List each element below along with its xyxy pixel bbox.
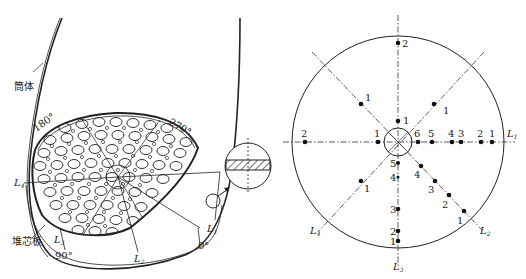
right-L3-label: L3 [392,261,404,273]
point-label-lower-left-1: 1 [364,183,370,194]
point-label-down-1: 1 [390,236,396,247]
right-diagram: 2 1 1 1 2 1 6 5 4 3 2 1 5 4 3 2 1 4 3 2 … [283,15,517,273]
right-L4-label: L4 [309,225,321,237]
point-label-up-inner-1: 1 [403,115,409,126]
right-L1-label: L1 [506,128,517,140]
figure-canvas: 筒体 堆芯板 180° 270° 90° 0° L4 L3 L2 L1 [0,0,526,279]
point-label-right-6: 6 [414,128,420,139]
angle-90-label: 90° [55,250,73,261]
detail-inset [225,138,271,194]
point-label-upper-right-1: 1 [443,105,449,116]
left-L2-label: L2 [133,253,145,265]
shell-label: 筒体 [14,80,34,92]
point-label-down-3: 3 [390,204,396,215]
point-label-diag-4: 4 [414,169,420,180]
point-label-down-4: 4 [390,172,396,183]
point-label-down-5: 5 [390,158,396,169]
point-label-left-inner-1: 1 [374,128,380,139]
point-label-top-2: 2 [402,38,408,49]
left-L3-label: L3 [53,234,65,246]
point-label-right-1: 1 [489,128,495,139]
core-plate-label: 堆芯板 [12,235,42,247]
point-label-right-4: 4 [448,128,454,139]
point-label-diag-3: 3 [428,184,434,195]
point-label-right-2: 2 [477,128,483,139]
point-label-right-5: 5 [428,128,434,139]
left-L4-label: L4 [13,177,25,189]
detail-marker-circle [206,194,220,208]
point-label-diag-2: 2 [442,199,448,210]
left-diagram: 筒体 堆芯板 180° 270° 90° 0° L4 L3 L2 L1 [12,18,271,269]
right-L2-label: L2 [479,225,491,237]
point-label-diag-1: 1 [457,215,463,226]
point-label-right-3: 3 [458,128,464,139]
point-label-left-2: 2 [301,128,307,139]
angle-0-label: 0° [198,240,209,251]
point-label-upper-left-1: 1 [365,92,371,103]
